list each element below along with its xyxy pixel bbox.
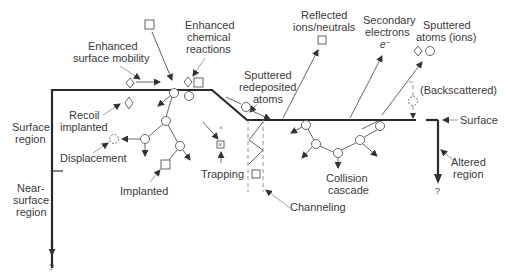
diamond-icon — [126, 78, 134, 88]
channeled-ion-square-icon — [252, 170, 260, 178]
altered-region-label: Altered region — [441, 150, 486, 180]
svg-text:implanted: implanted — [60, 121, 108, 133]
svg-text:region: region — [453, 168, 484, 180]
svg-text:reactions: reactions — [186, 43, 231, 55]
diamond-icon — [184, 77, 192, 87]
svg-text:Surface: Surface — [12, 121, 50, 133]
diamond-icon — [125, 97, 133, 109]
surface-profile — [52, 90, 438, 268]
svg-text:Displacement: Displacement — [60, 152, 127, 164]
trapping: × × Trapping — [201, 122, 244, 180]
svg-text:chemical: chemical — [187, 31, 230, 43]
svg-text:Channeling: Channeling — [290, 201, 346, 213]
question-left: ? — [49, 262, 54, 272]
enhanced-chemical-reactions: Enhanced chemical reactions — [184, 19, 235, 87]
svg-text:Enhanced: Enhanced — [88, 40, 138, 52]
implanted: Implanted — [120, 170, 168, 197]
channeling: Channeling — [248, 120, 346, 213]
collision-cascade: Collision cascade — [291, 121, 385, 197]
ion-surface-interaction-diagram: ? ? Enhanced surface mobility Enhanced c… — [0, 0, 508, 274]
square-icon — [194, 78, 203, 87]
svg-text:Sputtered: Sputtered — [244, 69, 292, 81]
enhanced-surface-mobility: Enhanced surface mobility — [73, 40, 160, 88]
svg-text:Altered: Altered — [451, 156, 486, 168]
svg-text:Trapping: Trapping — [201, 168, 244, 180]
svg-text:atoms: atoms — [253, 93, 283, 105]
svg-text:cascade: cascade — [328, 184, 369, 196]
svg-text:ions/neutrals: ions/neutrals — [293, 21, 356, 33]
electron-symbol: e⁻ — [380, 39, 391, 50]
altered-region-arrow: ? — [434, 120, 442, 196]
vacancy-dashed-circle-icon — [110, 135, 119, 144]
atom-circle-icon — [426, 47, 435, 56]
svg-text:Surface: Surface — [460, 114, 498, 126]
secondary-electrons: Secondary electrons e⁻ — [350, 14, 416, 118]
svg-text:(Backscattered): (Backscattered) — [420, 84, 497, 96]
svg-text:Secondary: Secondary — [363, 14, 416, 26]
svg-text:atoms (ions): atoms (ions) — [416, 31, 477, 43]
recoil-implanted: Recoil implanted — [60, 97, 133, 133]
atom-circle-icon — [242, 103, 251, 112]
svg-text:Recoil: Recoil — [69, 109, 100, 121]
svg-text:Reflected: Reflected — [301, 9, 347, 21]
displacement: Displacement — [60, 143, 127, 164]
incident-ion — [145, 20, 172, 80]
backscattered-dashed-circle-icon — [409, 97, 418, 106]
svg-text:Enhanced: Enhanced — [185, 19, 235, 31]
reflected-ions-neutrals: Reflected ions/neutrals — [283, 9, 356, 118]
svg-text:redeposited: redeposited — [239, 81, 297, 93]
atom-circle-icon — [185, 92, 194, 101]
incident-ion-square-icon — [145, 20, 154, 29]
svg-text:×: × — [218, 141, 222, 148]
reflected-square-icon — [318, 36, 326, 44]
svg-text:×: × — [219, 124, 223, 131]
implanted-square-icon — [161, 160, 170, 169]
svg-text:surface: surface — [13, 194, 49, 206]
svg-text:Implanted: Implanted — [120, 185, 168, 197]
svg-text:region: region — [16, 206, 47, 218]
surface-label: Surface — [443, 114, 498, 126]
svg-text:region: region — [15, 133, 46, 145]
near-surface-region-label: Near- surface region — [13, 182, 49, 218]
diamond-icon — [414, 46, 422, 56]
atom-circle-icon — [170, 89, 179, 98]
question-right: ? — [435, 186, 440, 196]
svg-text:Sputtered: Sputtered — [423, 19, 471, 31]
svg-text:electrons: electrons — [365, 26, 410, 38]
svg-text:Near-: Near- — [17, 182, 45, 194]
surface-region-label: Surface region — [12, 121, 50, 145]
svg-text:Collision: Collision — [326, 172, 368, 184]
svg-text:surface mobility: surface mobility — [73, 52, 150, 64]
